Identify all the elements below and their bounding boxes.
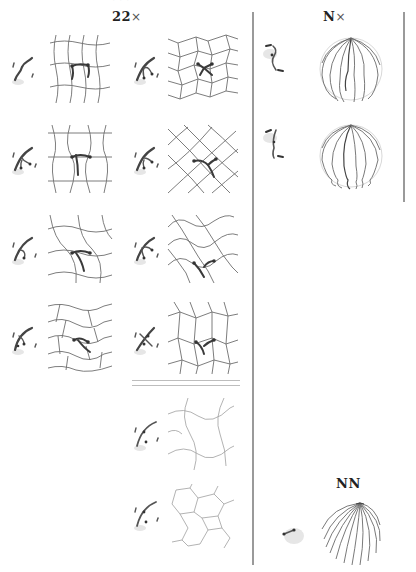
- wavy-diamond-lattice: [168, 215, 238, 283]
- brick-hex-lattice: [168, 35, 238, 103]
- left-panel-title-main: 22: [112, 9, 131, 24]
- double-rule-bottom: [132, 385, 240, 386]
- hook-strand-glyph-icon: [262, 40, 292, 80]
- wavy-strand-glyph-icon: [10, 52, 40, 87]
- hook-strand-glyph-icon: [262, 124, 292, 164]
- short-segment-glyph-icon: [278, 522, 308, 546]
- trapezoid-lattice: [48, 125, 112, 193]
- bottom-right-title: NN: [336, 476, 361, 491]
- right-panel-title-suffix: ×: [335, 10, 346, 24]
- meridian-looped-sphere: [316, 122, 386, 190]
- branching-strand-glyph-icon: [10, 322, 40, 357]
- dotted-strand-glyph-icon: [132, 496, 162, 534]
- dotted-strand-glyph-icon: [132, 416, 162, 454]
- wavy-brick-lattice: [48, 302, 112, 374]
- branching-strand-glyph-icon: [10, 232, 40, 267]
- crossed-strand-glyph-icon: [132, 322, 162, 357]
- right-panel-title-main: N: [323, 9, 335, 24]
- left-panel-title: 22×: [112, 9, 142, 24]
- branching-strand-glyph-icon: [132, 52, 162, 87]
- branching-strand-glyph-icon: [10, 142, 40, 177]
- right-panel-title: N×: [323, 9, 346, 24]
- meridian-branching-sphere: [316, 35, 386, 103]
- main-vertical-divider: [252, 12, 254, 565]
- cropped-top-text: · · ·: [112, 0, 129, 7]
- diagonal-square-lattice: [168, 125, 238, 193]
- sparse-sine-lattice: [168, 398, 238, 470]
- square-wavy-lattice: [48, 35, 112, 103]
- swirl-meridians-sphere: [316, 499, 386, 567]
- branching-strand-glyph-icon: [132, 142, 162, 177]
- sine-wave-lattice: [48, 215, 112, 283]
- left-panel-title-suffix: ×: [131, 10, 142, 24]
- irregular-quad-lattice: [168, 302, 238, 374]
- right-vertical-divider: [403, 12, 405, 202]
- double-rule-top: [132, 380, 240, 381]
- branching-strand-glyph-icon: [132, 232, 162, 267]
- sparse-hex-lattice: [168, 484, 238, 554]
